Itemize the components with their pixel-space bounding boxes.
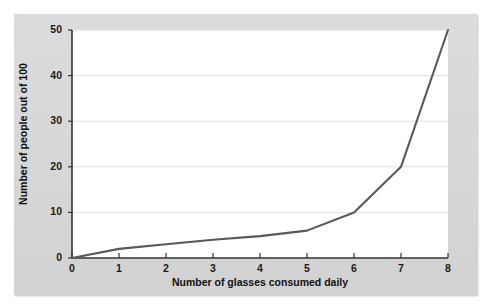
data-series-line xyxy=(72,30,448,258)
y-tick-label: 20 xyxy=(26,160,62,172)
x-tick-label: 8 xyxy=(433,262,463,274)
x-tick-label: 5 xyxy=(292,262,322,274)
x-tick-label: 3 xyxy=(198,262,228,274)
y-tick-label: 50 xyxy=(26,23,62,35)
x-tick-label: 0 xyxy=(57,262,87,274)
x-axis-label: Number of glasses consumed daily xyxy=(72,276,448,288)
x-tick-label: 7 xyxy=(386,262,416,274)
x-tick-label: 4 xyxy=(245,262,275,274)
x-tick-label: 1 xyxy=(104,262,134,274)
x-tick-label: 6 xyxy=(339,262,369,274)
gridlines-group xyxy=(72,30,448,212)
x-tick-label: 2 xyxy=(151,262,181,274)
chart-figure: Number of people out of 100 Number of gl… xyxy=(0,0,492,308)
y-tick-label: 30 xyxy=(26,114,62,126)
y-tick-label: 10 xyxy=(26,205,62,217)
y-tick-label: 40 xyxy=(26,69,62,81)
